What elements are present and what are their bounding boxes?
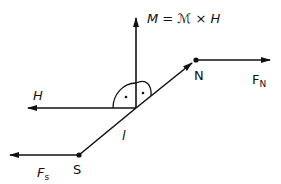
north-pole-label: N: [194, 68, 204, 83]
moment-label: M = ℳ × H: [147, 11, 220, 26]
right-angle-dot-left: [125, 96, 128, 99]
field-label-h: H: [33, 88, 43, 103]
magnet-axis-upper: [136, 63, 192, 108]
magnetic-dipole-torque-diagram: M = ℳ × H H N S l FN Fs: [0, 0, 281, 184]
right-angle-arc-left: [113, 83, 136, 108]
right-angle-dot-right: [142, 92, 145, 95]
length-label: l: [122, 128, 126, 143]
force-north-label: FN: [252, 72, 266, 89]
force-south-label: Fs: [37, 165, 49, 182]
south-pole-label: S: [73, 162, 81, 177]
magnet-axis-lower: [79, 108, 136, 155]
